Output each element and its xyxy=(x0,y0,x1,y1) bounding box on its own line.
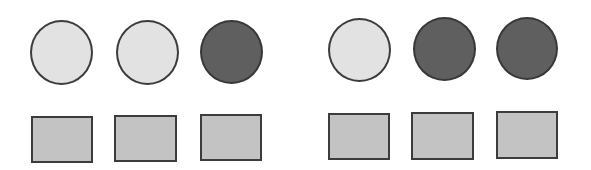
light-circle xyxy=(116,20,179,85)
gray-rectangle xyxy=(31,116,93,163)
dark-circle xyxy=(200,20,263,84)
gray-rectangle xyxy=(411,112,474,160)
dark-circle xyxy=(413,17,476,81)
gray-rectangle xyxy=(496,111,558,159)
gray-rectangle xyxy=(328,113,390,160)
gray-rectangle xyxy=(114,115,177,162)
light-circle xyxy=(30,20,93,85)
gray-rectangle xyxy=(200,114,262,161)
light-circle xyxy=(328,18,391,82)
dark-circle xyxy=(496,17,558,80)
